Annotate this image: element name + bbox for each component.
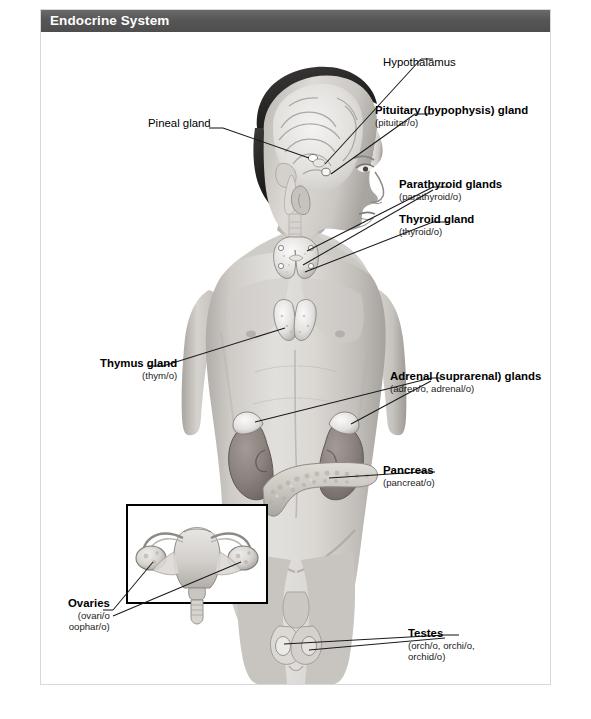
label-testes-sub2: orchid/o): [408, 651, 475, 662]
figure-title-bar: Endocrine System: [41, 10, 550, 32]
label-pancreas-sub: (pancreat/o): [383, 477, 435, 488]
label-thymus-lead: Thymus gland: [100, 357, 177, 370]
label-pituitary: Pituitary (hypophysis) gland (pituitar/o…: [375, 104, 528, 128]
pituitary-gland-structure: [322, 168, 330, 176]
label-ovaries-lead: Ovaries: [68, 597, 110, 610]
testis-right: [302, 637, 317, 656]
label-adrenal-lead: Adrenal (suprarenal) glands: [390, 370, 541, 383]
label-testes: Testes (orch/o, orchi/o, orchid/o): [408, 627, 475, 662]
testis-left: [276, 637, 291, 656]
label-thyroid-sub: (thyroid/o): [399, 226, 474, 237]
label-pituitary-sub: (pituitar/o): [375, 117, 528, 128]
label-thymus-sub: (thym/o): [100, 370, 177, 381]
endocrine-system-figure: Endocrine System: [0, 0, 591, 719]
label-ovaries-sub2: oophar/o): [68, 621, 110, 632]
label-thymus: Thymus gland (thym/o): [100, 357, 177, 381]
label-adrenal: Adrenal (suprarenal) glands (adren/o, ad…: [390, 370, 541, 394]
label-parathyroid: Parathyroid glands (parathyroid/o): [399, 178, 502, 202]
label-thyroid: Thyroid gland (thyroid/o): [399, 213, 474, 237]
label-pituitary-lead: Pituitary (hypophysis) gland: [375, 104, 528, 117]
label-pineal: Pineal gland: [148, 117, 211, 130]
label-testes-sub: (orch/o, orchi/o,: [408, 640, 475, 651]
label-parathyroid-sub: (parathyroid/o): [399, 191, 502, 202]
label-thyroid-lead: Thyroid gland: [399, 213, 474, 226]
label-pancreas-lead: Pancreas: [383, 464, 435, 477]
label-ovaries-sub: (ovari/o: [68, 610, 110, 621]
hypothalamus-structure: [313, 159, 325, 167]
label-testes-lead: Testes: [408, 627, 475, 640]
label-ovaries: Ovaries (ovari/o oophar/o): [68, 597, 110, 632]
head-profile: [253, 67, 383, 241]
label-parathyroid-lead: Parathyroid glands: [399, 178, 502, 191]
label-pineal-lead: Pineal gland: [148, 117, 211, 130]
label-pancreas: Pancreas (pancreat/o): [383, 464, 435, 488]
label-hypothalamus-lead: Hypothalamus: [383, 56, 456, 69]
label-hypothalamus: Hypothalamus: [383, 56, 456, 69]
label-adrenal-sub: (adren/o, adrenal/o): [390, 383, 541, 394]
page-title: Endocrine System: [41, 14, 169, 28]
